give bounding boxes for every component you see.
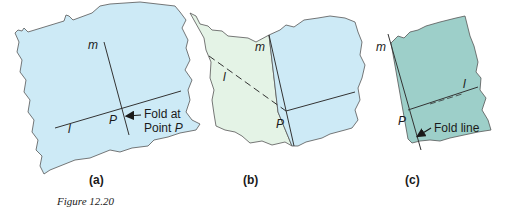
- label-m: m: [255, 40, 265, 54]
- panel-a: m l P Fold at Point P (a): [15, 2, 200, 187]
- annotation-point-var: P: [175, 121, 183, 135]
- annotation-fold-line: Fold line: [434, 121, 480, 135]
- label-l: l: [223, 70, 226, 84]
- label-l: l: [68, 122, 71, 136]
- figure-12-20: m l P Fold at Point P (a) m l P (b) m l …: [0, 0, 509, 215]
- paper-sheet: [15, 2, 200, 174]
- label-p: P: [276, 117, 284, 131]
- panel-label-c: (c): [405, 173, 420, 187]
- annotation-point-p: Point P: [144, 121, 183, 135]
- label-l: l: [463, 77, 466, 91]
- label-p: P: [109, 113, 117, 127]
- label-m: m: [376, 40, 386, 54]
- panel-c: m l P Fold line (c): [376, 16, 491, 187]
- figure-caption: Figure 12.20: [56, 195, 115, 207]
- panel-b: m l P (b): [190, 13, 365, 187]
- panel-label-a: (a): [89, 173, 104, 187]
- annotation-point-prefix: Point: [144, 121, 175, 135]
- panel-label-b: (b): [243, 173, 258, 187]
- annotation-fold-at: Fold at: [144, 107, 181, 121]
- label-m: m: [88, 38, 98, 52]
- label-p: P: [398, 114, 406, 128]
